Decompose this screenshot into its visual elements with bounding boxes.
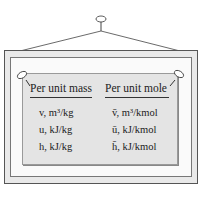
mole-row-u: ū, kJ/kmol <box>112 124 156 135</box>
mass-row-v: v, m³/kg <box>39 107 74 118</box>
header-per-unit-mole: Per unit mole <box>105 82 167 94</box>
header-per-unit-mass: Per unit mass <box>30 82 92 94</box>
pin-left-icon <box>16 70 28 80</box>
mole-row-h: h̄, kJ/kmol <box>112 141 156 152</box>
mass-row-h: h, kJ/kg <box>39 141 72 152</box>
mass-row-u: u, kJ/kg <box>39 124 72 135</box>
underline-mass <box>30 97 92 98</box>
mole-row-v: v̄, m³/kmol <box>112 107 158 118</box>
pins <box>0 0 208 197</box>
underline-mole <box>105 97 169 98</box>
pin-right-icon <box>173 69 185 79</box>
